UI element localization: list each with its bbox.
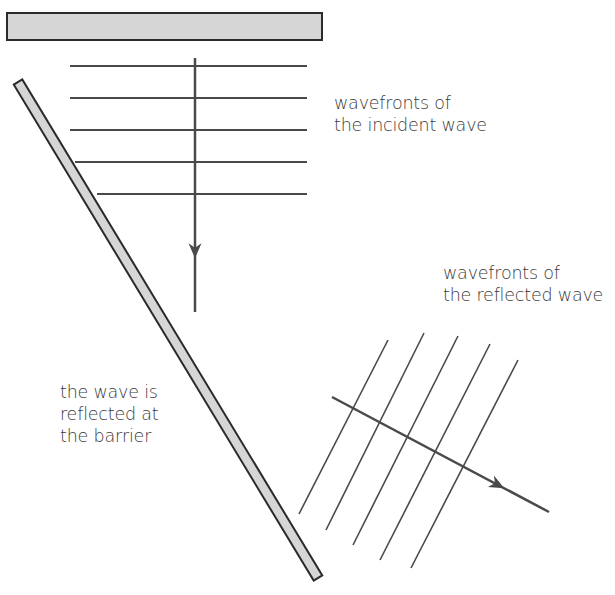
diagonal-barrier-rect <box>14 79 323 580</box>
incident-label-line1: wavefronts of <box>334 92 487 114</box>
reflected-wavefront-line <box>353 336 458 545</box>
reflected-label-line2: the reflected wave <box>443 284 603 306</box>
incident-wavefronts <box>70 66 307 194</box>
reflected-wavefront-line <box>411 360 518 568</box>
reflected-ray-line <box>332 397 549 512</box>
barrier-label-line2: reflected at <box>60 403 158 425</box>
reflected-wavefront-line <box>299 340 388 514</box>
reflected-wavefronts <box>299 333 518 568</box>
incident-wavefronts-label: wavefronts of the incident wave <box>334 92 487 136</box>
reflected-ray-arrow-icon <box>332 397 549 512</box>
reflected-wavefronts-label: wavefronts of the reflected wave <box>443 262 603 306</box>
incident-ray-arrow-icon <box>189 58 202 312</box>
top-barrier-rect <box>7 13 322 40</box>
barrier-label-line1: the wave is <box>60 381 158 403</box>
reflected-label-line1: wavefronts of <box>443 262 603 284</box>
barrier-reflection-label: the wave is reflected at the barrier <box>60 381 158 447</box>
top-barrier <box>7 13 322 40</box>
diagonal-barrier <box>14 79 323 580</box>
barrier-label-line3: the barrier <box>60 425 158 447</box>
incident-label-line2: the incident wave <box>334 114 487 136</box>
